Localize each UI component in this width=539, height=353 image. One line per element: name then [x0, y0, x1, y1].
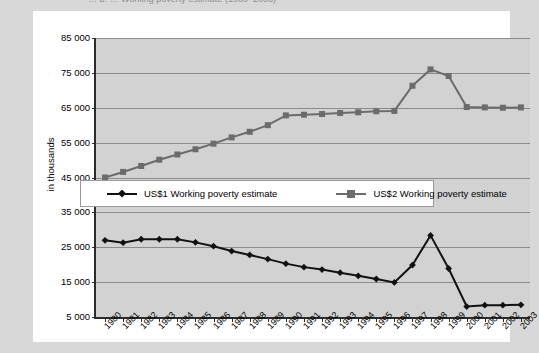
data-point-marker	[518, 301, 525, 308]
data-point-marker	[337, 110, 343, 116]
data-point-marker	[373, 108, 379, 114]
y-tick-label: 85 000	[38, 32, 90, 43]
legend-marker-square-icon	[336, 189, 366, 199]
data-point-marker	[247, 129, 253, 135]
series-us2	[102, 66, 524, 180]
series-us1	[102, 232, 525, 310]
data-point-marker	[499, 302, 506, 309]
data-point-marker	[464, 104, 470, 110]
data-point-marker	[192, 239, 199, 246]
y-tick-label: 5 000	[38, 311, 90, 322]
data-point-marker	[229, 134, 235, 140]
y-tick-label: 15 000	[38, 276, 90, 287]
data-point-marker	[174, 236, 181, 243]
data-point-marker	[264, 256, 271, 263]
data-point-marker	[373, 276, 380, 283]
y-tick-label: 75 000	[38, 67, 90, 78]
data-point-marker	[283, 112, 289, 118]
data-point-marker	[355, 272, 362, 279]
chart-card: in thousands 85 00075 00065 00055 00045 …	[33, 11, 510, 342]
data-point-marker	[265, 122, 271, 128]
data-point-marker	[500, 105, 506, 111]
plot-area: 85 00075 00065 00055 00045 00035 00025 0…	[94, 38, 530, 319]
cropped-title-strip: … b. … Working poverty estimate (1980–20…	[0, 0, 518, 10]
chart-legend: US$1 Working poverty estimate US$2 Worki…	[80, 180, 434, 207]
data-point-marker	[319, 111, 325, 117]
y-tick-mark	[92, 317, 96, 318]
data-point-marker	[138, 236, 145, 243]
data-point-marker	[301, 264, 308, 271]
y-tick-label: 25 000	[38, 241, 90, 252]
data-point-marker	[210, 243, 217, 250]
data-point-marker	[481, 302, 488, 309]
data-point-marker	[102, 237, 109, 244]
data-point-marker	[120, 239, 127, 246]
data-series-layer	[96, 38, 530, 317]
data-point-marker	[301, 112, 307, 118]
legend-marker-diamond-icon	[107, 189, 137, 199]
data-point-marker	[463, 303, 470, 310]
data-point-marker	[428, 66, 434, 72]
data-point-marker	[319, 266, 326, 273]
y-tick-label: 55 000	[38, 137, 90, 148]
data-point-marker	[446, 73, 452, 79]
data-point-marker	[518, 104, 524, 110]
legend-label-us1: US$1 Working poverty estimate	[144, 188, 277, 199]
data-point-marker	[282, 260, 289, 267]
series-line	[105, 235, 521, 306]
y-axis-title: in thousands	[45, 120, 56, 210]
legend-label-us2: US$2 Working poverty estimate	[373, 188, 506, 199]
data-point-marker	[409, 83, 415, 89]
data-point-marker	[246, 252, 253, 259]
data-point-marker	[211, 141, 217, 147]
data-point-marker	[156, 157, 162, 163]
data-point-marker	[120, 169, 126, 175]
data-point-marker	[138, 163, 144, 169]
y-tick-label: 35 000	[38, 206, 90, 217]
data-point-marker	[156, 236, 163, 243]
data-point-marker	[228, 248, 235, 255]
legend-item-us2[interactable]: US$2 Working poverty estimate	[336, 188, 506, 199]
y-tick-label: 65 000	[38, 102, 90, 113]
legend-item-us1[interactable]: US$1 Working poverty estimate	[107, 188, 277, 199]
data-point-marker	[391, 108, 397, 114]
data-point-marker	[355, 109, 361, 115]
data-point-marker	[174, 151, 180, 157]
cropped-title-text: … b. … Working poverty estimate (1980–20…	[88, 0, 276, 4]
data-point-marker	[192, 146, 198, 152]
data-point-marker	[337, 269, 344, 276]
data-point-marker	[482, 104, 488, 110]
series-line	[105, 69, 521, 177]
